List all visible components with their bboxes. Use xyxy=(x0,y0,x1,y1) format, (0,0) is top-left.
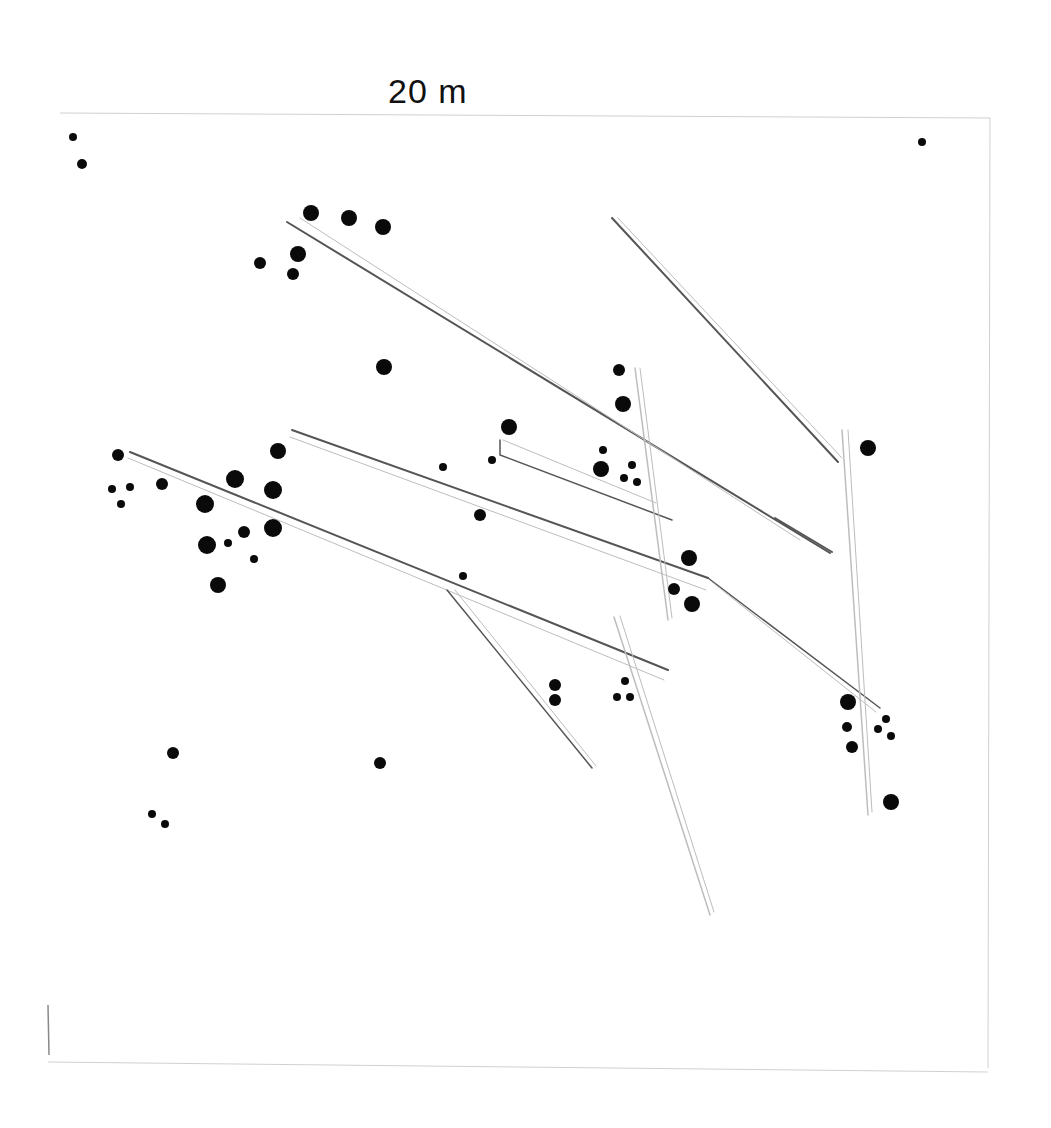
post-hole-dot xyxy=(684,596,700,612)
post-hole-dot xyxy=(156,478,168,490)
post-hole-dot xyxy=(108,485,116,493)
log-outline xyxy=(712,582,876,712)
log-outline xyxy=(503,440,656,503)
frame-left-mark xyxy=(48,1005,49,1055)
log-outline xyxy=(775,518,832,552)
post-hole-dot xyxy=(117,500,125,508)
post-hole-dot xyxy=(254,257,266,269)
post-hole-dot xyxy=(264,519,282,537)
post-hole-dot xyxy=(593,461,609,477)
post-hole-dot xyxy=(264,481,282,499)
post-hole-markers xyxy=(69,133,926,828)
post-hole-dot xyxy=(874,725,882,733)
log-outline xyxy=(455,590,596,766)
plot-frame xyxy=(48,113,990,1072)
log-outline xyxy=(842,430,868,815)
post-hole-dot xyxy=(860,440,876,456)
post-hole-dot xyxy=(126,483,134,491)
post-hole-dot xyxy=(439,463,447,471)
post-hole-dot xyxy=(161,820,169,828)
post-hole-dot xyxy=(77,159,87,169)
log-outline xyxy=(300,218,800,540)
log-outline xyxy=(128,458,664,680)
frame-bottom xyxy=(48,1062,988,1072)
log-outline xyxy=(130,452,668,670)
post-hole-dot xyxy=(633,478,641,486)
post-hole-dot xyxy=(842,722,852,732)
post-hole-dot xyxy=(599,446,607,454)
post-hole-dot xyxy=(615,396,631,412)
post-hole-dot xyxy=(459,572,467,580)
post-hole-dot xyxy=(198,536,216,554)
post-hole-dot xyxy=(224,539,232,547)
frame-top xyxy=(60,113,990,118)
log-outline xyxy=(620,616,714,912)
post-hole-dot xyxy=(376,359,392,375)
post-hole-dot xyxy=(238,526,250,538)
log-outline xyxy=(618,218,842,458)
post-hole-dot xyxy=(210,577,226,593)
post-hole-dot xyxy=(474,509,486,521)
log-outline xyxy=(708,578,880,708)
post-hole-dot xyxy=(488,456,496,464)
plan-canvas xyxy=(0,0,1051,1128)
post-hole-dot xyxy=(501,419,517,435)
post-hole-dot xyxy=(303,205,319,221)
log-outline xyxy=(287,222,830,553)
post-hole-dot xyxy=(628,461,636,469)
post-hole-dot xyxy=(621,677,629,685)
post-hole-dot xyxy=(341,210,357,226)
post-hole-dot xyxy=(681,550,697,566)
post-hole-dot xyxy=(613,364,625,376)
post-hole-dot xyxy=(167,747,179,759)
log-outline xyxy=(848,430,872,812)
post-hole-dot xyxy=(112,449,124,461)
log-outline xyxy=(612,218,838,462)
log-outline xyxy=(290,437,706,590)
post-hole-dot xyxy=(883,794,899,810)
post-hole-dot xyxy=(69,133,77,141)
log-outline xyxy=(640,368,672,618)
post-hole-dot xyxy=(846,741,858,753)
post-hole-dot xyxy=(626,693,634,701)
post-hole-dot xyxy=(148,810,156,818)
post-hole-dot xyxy=(196,495,214,513)
log-outline xyxy=(614,617,710,915)
post-hole-dot xyxy=(549,694,561,706)
log-outline xyxy=(447,590,592,768)
post-hole-dot xyxy=(374,757,386,769)
post-hole-dot xyxy=(226,470,244,488)
site-plan-diagram: 20 m xyxy=(0,0,1051,1128)
fallen-logs xyxy=(128,218,880,915)
frame-right xyxy=(988,118,990,1068)
post-hole-dot xyxy=(549,679,561,691)
post-hole-dot xyxy=(375,219,391,235)
post-hole-dot xyxy=(620,474,628,482)
post-hole-dot xyxy=(887,732,895,740)
log-outline xyxy=(635,368,668,620)
post-hole-dot xyxy=(882,715,890,723)
post-hole-dot xyxy=(287,268,299,280)
post-hole-dot xyxy=(918,138,926,146)
post-hole-dot xyxy=(840,694,856,710)
post-hole-dot xyxy=(668,583,680,595)
post-hole-dot xyxy=(290,246,306,262)
post-hole-dot xyxy=(613,693,621,701)
post-hole-dot xyxy=(250,555,258,563)
post-hole-dot xyxy=(270,443,286,459)
